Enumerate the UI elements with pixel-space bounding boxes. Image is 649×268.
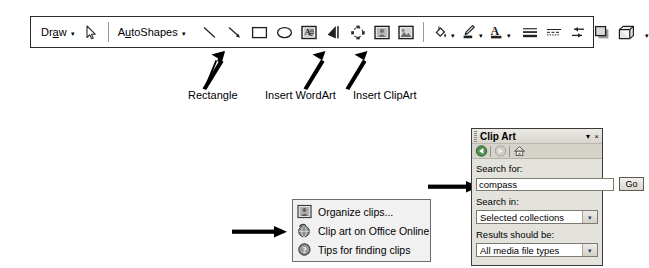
fill-color-button[interactable] bbox=[429, 19, 450, 45]
search-in-label: Search in: bbox=[476, 196, 598, 208]
select-objects-button[interactable] bbox=[80, 19, 103, 45]
insert-diagram-icon bbox=[350, 25, 366, 40]
drawing-toolbar: Draw ▾ AutoShapes ▾ bbox=[30, 16, 594, 48]
office-online-icon bbox=[297, 223, 312, 238]
pane-menu-caret-icon[interactable]: ▾ bbox=[586, 132, 590, 141]
font-color-caret-icon[interactable]: ▾ bbox=[507, 32, 511, 39]
line-color-button[interactable] bbox=[457, 19, 478, 45]
svg-text:?: ? bbox=[302, 245, 307, 255]
callout-arrow-rectangle bbox=[196, 50, 232, 90]
back-icon bbox=[475, 145, 488, 157]
draw-menu-button[interactable]: Draw ▾ bbox=[35, 19, 80, 45]
insert-clipart-button[interactable] bbox=[370, 19, 394, 45]
results-should-be-dropdown[interactable]: All media file types ▾ bbox=[476, 243, 598, 257]
search-for-label: Search for: bbox=[476, 163, 598, 175]
insert-clipart-icon bbox=[374, 25, 390, 40]
pane-toolbar-separator bbox=[509, 146, 510, 157]
toolbar-separator bbox=[193, 22, 194, 42]
clip-art-pane-titlebar: Clip Art ▾ × bbox=[472, 129, 602, 144]
forward-button[interactable] bbox=[493, 145, 507, 158]
select-objects-icon bbox=[86, 25, 97, 40]
line-color-caret-icon[interactable]: ▾ bbox=[479, 32, 483, 39]
shadow-style-icon bbox=[594, 25, 610, 40]
search-in-value: Selected collections bbox=[477, 212, 582, 223]
rectangle-button[interactable] bbox=[247, 19, 272, 45]
text-box-button[interactable]: A bbox=[297, 19, 321, 45]
insert-picture-icon bbox=[398, 25, 414, 40]
search-row: Go bbox=[476, 177, 598, 191]
dash-style-icon bbox=[546, 25, 562, 40]
line-style-button[interactable] bbox=[518, 19, 542, 45]
menu-item-organize-clips[interactable]: Organize clips... bbox=[293, 202, 430, 221]
results-should-be-value: All media file types bbox=[477, 245, 582, 256]
draw-menu-label: Draw bbox=[41, 26, 67, 38]
go-button[interactable]: Go bbox=[619, 177, 644, 191]
oval-button[interactable] bbox=[272, 19, 297, 45]
menu-item-label: Clip art on Office Online bbox=[318, 225, 429, 237]
autoshapes-menu-caret-icon: ▾ bbox=[182, 30, 186, 37]
callout-arrow-clipart bbox=[339, 50, 375, 90]
font-color-button[interactable]: A bbox=[485, 19, 506, 45]
pane-toolbar-separator bbox=[490, 146, 491, 157]
toolbar-overflow-caret-icon[interactable]: ▾ bbox=[645, 32, 649, 39]
line-color-icon bbox=[461, 24, 476, 40]
autoshapes-menu-label: AutoShapes bbox=[118, 26, 178, 38]
back-button[interactable] bbox=[474, 145, 488, 158]
arrow-button[interactable] bbox=[222, 19, 247, 45]
insert-wordart-icon bbox=[326, 25, 341, 40]
chevron-down-icon[interactable]: ▾ bbox=[582, 244, 597, 256]
fill-color-caret-icon[interactable]: ▾ bbox=[451, 32, 455, 39]
chevron-down-icon[interactable]: ▾ bbox=[582, 211, 597, 223]
menu-item-tips-for-finding-clips[interactable]: ? Tips for finding clips bbox=[293, 240, 430, 259]
home-icon bbox=[513, 145, 526, 157]
three-d-style-icon bbox=[618, 25, 635, 40]
autoshapes-menu-button[interactable]: AutoShapes ▾ bbox=[114, 19, 190, 45]
insert-diagram-button[interactable] bbox=[346, 19, 370, 45]
search-input[interactable] bbox=[476, 178, 614, 191]
callout-label-wordart: Insert WordArt bbox=[265, 89, 336, 102]
clipart-context-menu: Organize clips... Clip art on Office Onl… bbox=[292, 199, 431, 262]
rectangle-icon bbox=[251, 25, 268, 40]
menu-item-label: Tips for finding clips bbox=[318, 244, 410, 256]
clip-art-task-pane: Clip Art ▾ × Search for: bbox=[471, 128, 603, 266]
oval-icon bbox=[276, 25, 293, 40]
clip-art-pane-body: Search for: Go Search in: Selected colle… bbox=[472, 159, 602, 257]
callout-arrow-wordart bbox=[297, 50, 333, 90]
arrow-style-icon bbox=[570, 25, 586, 40]
tips-help-icon: ? bbox=[297, 242, 312, 257]
pointer-arrow-menu-item bbox=[232, 225, 288, 239]
toolbar-separator bbox=[515, 22, 516, 42]
three-d-style-button[interactable] bbox=[614, 19, 639, 45]
dash-style-button[interactable] bbox=[542, 19, 566, 45]
line-icon bbox=[202, 25, 217, 40]
toolbar-separator bbox=[108, 22, 109, 42]
callout-label-rectangle: Rectangle bbox=[188, 89, 238, 102]
clip-art-pane-toolbar bbox=[472, 144, 602, 159]
toolbar-separator bbox=[423, 22, 424, 42]
forward-icon bbox=[494, 145, 507, 157]
clip-art-pane-title: Clip Art bbox=[480, 131, 582, 142]
callout-label-clipart: Insert ClipArt bbox=[353, 89, 417, 102]
results-should-be-label: Results should be: bbox=[476, 229, 598, 241]
pane-close-icon[interactable]: × bbox=[594, 132, 599, 141]
line-style-icon bbox=[522, 25, 538, 40]
line-button[interactable] bbox=[197, 19, 222, 45]
arrow-style-button[interactable] bbox=[566, 19, 590, 45]
organize-clips-icon bbox=[297, 204, 312, 219]
font-color-icon: A bbox=[489, 24, 504, 40]
fill-color-icon bbox=[433, 25, 448, 40]
menu-item-label: Organize clips... bbox=[318, 206, 393, 218]
shadow-style-button[interactable] bbox=[590, 19, 614, 45]
svg-text:A: A bbox=[304, 27, 311, 37]
insert-picture-button[interactable] bbox=[394, 19, 418, 45]
text-box-icon: A bbox=[301, 25, 317, 40]
draw-menu-caret-icon: ▾ bbox=[71, 30, 75, 37]
insert-wordart-button[interactable] bbox=[321, 19, 346, 45]
arrow-icon bbox=[227, 25, 242, 40]
home-button[interactable] bbox=[512, 145, 526, 158]
search-in-dropdown[interactable]: Selected collections ▾ bbox=[476, 210, 598, 224]
pane-grip-icon[interactable] bbox=[474, 131, 477, 142]
menu-item-clip-art-on-office-online[interactable]: Clip art on Office Online bbox=[293, 221, 430, 240]
